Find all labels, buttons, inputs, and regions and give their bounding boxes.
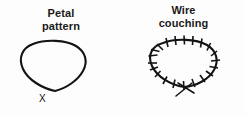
couching-stitch-tick-icon — [175, 36, 176, 45]
couching-stitch-tick-icon — [166, 38, 168, 47]
panel-petal-pattern: Petal pattern X — [0, 0, 122, 115]
stitch-diagram: Petal pattern X Wire couching — [0, 0, 245, 115]
panel-wire-couching: Wire couching — [122, 0, 245, 115]
couching-stitch-tick-icon — [210, 67, 219, 69]
couching-stitch-tick-icon — [173, 80, 175, 89]
couching-stitch-tick-icon — [184, 36, 185, 45]
couched-loop-icon — [122, 0, 245, 115]
couching-stitch-tick-icon — [193, 36, 194, 45]
petal-loop-path — [21, 41, 86, 91]
petal-base-label-x: X — [39, 94, 46, 104]
couching-stitch-tick-icon — [211, 60, 220, 61]
petal-loop-icon — [0, 0, 122, 115]
couching-stitch-tick-icon — [149, 55, 158, 56]
couching-stitch-tick-icon — [201, 39, 203, 48]
